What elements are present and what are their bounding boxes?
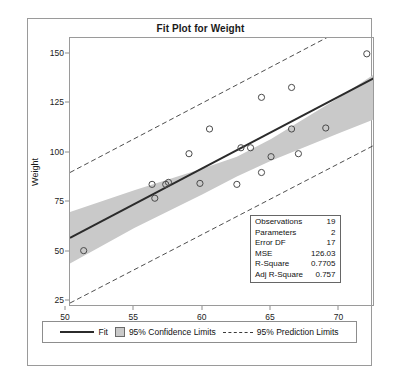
y-tick-label: 25	[55, 295, 64, 305]
legend-item-fit: Fit	[60, 327, 107, 337]
x-tick-mark	[270, 306, 271, 310]
legend-item-prediction: 95% Prediction Limits	[223, 327, 339, 337]
y-tick-mark	[65, 300, 69, 301]
data-point	[206, 126, 212, 132]
statistics-value: 17	[307, 238, 339, 249]
prediction-line-icon	[223, 332, 253, 333]
statistics-value: 2	[307, 228, 339, 239]
statistics-table: Observations19Parameters2Error DF17MSE12…	[251, 217, 340, 281]
y-tick-label: 125	[50, 97, 64, 107]
statistics-row: Adj R-Square0.757	[251, 270, 340, 281]
y-tick-mark	[65, 151, 69, 152]
legend-label-confidence: 95% Confidence Limits	[129, 327, 216, 337]
y-tick-label: 100	[50, 147, 64, 157]
statistics-row: Observations19	[251, 217, 340, 228]
x-tick-mark	[133, 306, 134, 310]
statistics-box: Observations19Parameters2Error DF17MSE12…	[250, 215, 341, 283]
legend-label-prediction: 95% Prediction Limits	[257, 327, 339, 337]
y-tick-mark	[65, 250, 69, 251]
y-axis-label: Weight	[30, 158, 40, 186]
y-tick-mark	[65, 201, 69, 202]
chart-legend: Fit 95% Confidence Limits 95% Prediction…	[42, 321, 357, 343]
data-point	[364, 51, 370, 57]
statistics-value: 19	[307, 217, 339, 228]
y-tick-mark	[65, 52, 69, 53]
x-tick-mark	[338, 306, 339, 310]
y-tick-label: 75	[55, 196, 64, 206]
statistics-row: MSE126.03	[251, 249, 340, 260]
x-tick-mark	[64, 306, 65, 310]
statistics-value: 0.7705	[307, 259, 339, 270]
data-point	[186, 151, 192, 157]
statistics-row: Error DF17	[251, 238, 340, 249]
fit-line-icon	[60, 331, 94, 333]
statistics-value: 126.03	[307, 249, 339, 260]
statistics-row: Parameters2	[251, 228, 340, 239]
statistics-value: 0.757	[307, 270, 339, 281]
y-tick-mark	[65, 102, 69, 103]
data-point	[258, 169, 264, 175]
fit-line	[70, 78, 374, 238]
data-point	[295, 151, 301, 157]
data-point	[234, 181, 240, 187]
statistics-label: Observations	[251, 217, 307, 228]
chart-frame: Fit Plot for Weight Weight Height 255075…	[27, 18, 372, 366]
data-point	[288, 84, 294, 90]
legend-label-fit: Fit	[98, 327, 107, 337]
data-point	[258, 94, 264, 100]
x-tick-mark	[201, 306, 202, 310]
y-tick-label: 50	[55, 246, 64, 256]
statistics-label: MSE	[251, 249, 307, 260]
statistics-label: R-Square	[251, 259, 307, 270]
chart-title: Fit Plot for Weight	[28, 23, 373, 34]
legend-item-confidence: 95% Confidence Limits	[115, 327, 216, 337]
statistics-label: Adj R-Square	[251, 270, 307, 281]
confidence-band-icon	[115, 327, 125, 337]
statistics-label: Parameters	[251, 228, 307, 239]
statistics-label: Error DF	[251, 238, 307, 249]
statistics-row: R-Square0.7705	[251, 259, 340, 270]
y-tick-label: 150	[50, 48, 64, 58]
